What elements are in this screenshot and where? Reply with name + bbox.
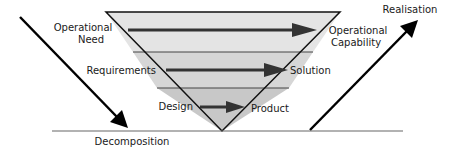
label-realisation: Realisation (383, 4, 438, 15)
label-decomposition: Decomposition (95, 136, 170, 147)
label-operational-capability-1: Operational (329, 25, 388, 36)
label-design: Design (158, 101, 193, 112)
label-operational-capability-2: Capability (331, 37, 381, 48)
label-product: Product (251, 103, 289, 114)
label-operational-need-2: Need (78, 34, 104, 45)
label-requirements: Requirements (86, 65, 156, 76)
label-operational-need-1: Operational (54, 22, 113, 33)
label-solution: Solution (290, 65, 331, 76)
v-model-diagram: Operational Need Requirements Design Ope… (0, 0, 456, 153)
